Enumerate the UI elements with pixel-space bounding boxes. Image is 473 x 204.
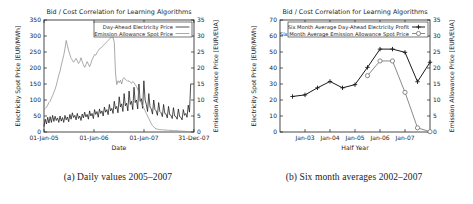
series-line-1 xyxy=(44,37,191,132)
legend-label-1: Emission Allowance Spot Price xyxy=(94,31,173,38)
chart-daily-values: Bid / Cost Correlation for Learning Algo… xyxy=(0,0,236,168)
y-tick-label: 50 xyxy=(269,48,277,55)
y2-tick-label: 10 xyxy=(433,96,441,103)
marker-circle xyxy=(428,130,432,134)
y2-axis-title: Emission Allowance Price [EUR/EUA] xyxy=(448,20,455,132)
y-tick-label: 40 xyxy=(269,64,277,71)
y2-tick-label: 20 xyxy=(197,64,205,71)
y2-tick-label: 30 xyxy=(433,32,441,39)
marker-plus xyxy=(328,79,332,83)
marker-circle xyxy=(403,90,407,94)
y-tick-label: 150 xyxy=(30,80,42,87)
subfigure-a: Bid / Cost Correlation for Learning Algo… xyxy=(0,0,236,204)
y2-tick-label: 0 xyxy=(433,128,437,135)
y2-tick-label: 10 xyxy=(197,96,205,103)
y-tick-label: 20 xyxy=(269,96,277,103)
plot-a-wrap: Bid / Cost Correlation for Learning Algo… xyxy=(0,0,236,168)
subfigure-b: Bid / Cost Correlation for Learning Algo… xyxy=(236,0,472,204)
y-tick-label: 300 xyxy=(30,32,42,39)
chart-title: Bid / Cost Correlation for Learning Algo… xyxy=(282,8,428,16)
y-axis-title: Electricity Spot Price [EUR/MWh] xyxy=(250,26,258,127)
chart-six-month-averages: Bid / Cost Correlation for Learning Algo… xyxy=(236,0,472,168)
y2-tick-label: 25 xyxy=(197,48,205,55)
y-tick-label: 250 xyxy=(30,48,42,55)
x-tick-label: Jan-04 xyxy=(319,134,339,142)
y2-tick-label: 35 xyxy=(433,16,441,23)
marker-circle xyxy=(415,126,419,130)
x-axis-title: Date xyxy=(112,144,127,151)
y2-tick-label: 25 xyxy=(433,48,441,55)
y-tick-label: 70 xyxy=(269,16,277,23)
y2-tick-label: 30 xyxy=(197,32,205,39)
y-tick-label: 30 xyxy=(269,80,277,87)
chart-title: Bid / Cost Correlation for Learning Algo… xyxy=(46,8,192,16)
marker-plus xyxy=(390,47,394,51)
series-line-0 xyxy=(293,49,431,96)
legend-marker-1 xyxy=(416,31,420,35)
x-tick-label: Jan-07 xyxy=(394,134,414,142)
caption-a: (a) Daily values 2005–2007 xyxy=(0,172,236,182)
marker-plus xyxy=(340,86,344,90)
y2-axis-title: Emission Allowance Price [EUR/EUA] xyxy=(212,20,219,132)
y-tick-label: 350 xyxy=(30,16,42,23)
y-tick-label: 60 xyxy=(269,32,277,39)
y2-tick-label: 5 xyxy=(197,112,201,119)
x-tick-label: 01-Jan-05 xyxy=(29,134,58,142)
caption-b: (b) Six month averages 2002–2007 xyxy=(236,172,472,182)
marker-plus xyxy=(290,94,294,98)
legend-label-1: Six Month Average Emission Allowance Spo… xyxy=(280,31,409,38)
series-line-0 xyxy=(44,81,191,126)
x-tick-label: 01-Jan-06 xyxy=(79,134,108,142)
x-tick-label: 31-Dec-07 xyxy=(178,134,209,141)
y-tick-label: 10 xyxy=(269,112,277,119)
y-tick-label: 200 xyxy=(30,64,42,71)
y2-tick-label: 20 xyxy=(433,64,441,71)
figure-row: Bid / Cost Correlation for Learning Algo… xyxy=(0,0,473,204)
x-tick-label: Jan-06 xyxy=(369,134,389,142)
y-axis-title: Electricity Spot Price [EUR/MWh] xyxy=(14,26,22,127)
x-axis-title: Half Year xyxy=(341,144,369,151)
marker-circle xyxy=(390,59,394,63)
series-line-1 xyxy=(368,61,431,132)
y2-tick-label: 15 xyxy=(433,80,441,87)
marker-plus xyxy=(303,93,307,97)
x-tick-label: 01-Jan-07 xyxy=(129,134,158,142)
marker-circle xyxy=(378,59,382,63)
x-tick-label: Jan-05 xyxy=(344,134,364,142)
y2-tick-label: 35 xyxy=(197,16,205,23)
y-tick-label: 100 xyxy=(30,96,42,103)
plot-b-wrap: Bid / Cost Correlation for Learning Algo… xyxy=(236,0,472,168)
y-tick-label: 0 xyxy=(273,128,277,135)
y2-tick-label: 15 xyxy=(197,80,205,87)
y2-tick-label: 5 xyxy=(433,112,437,119)
marker-circle xyxy=(365,74,369,78)
marker-plus xyxy=(403,50,407,54)
y-tick-label: 50 xyxy=(33,112,41,119)
marker-plus xyxy=(315,86,319,90)
x-tick-label: Jan-03 xyxy=(294,134,314,142)
